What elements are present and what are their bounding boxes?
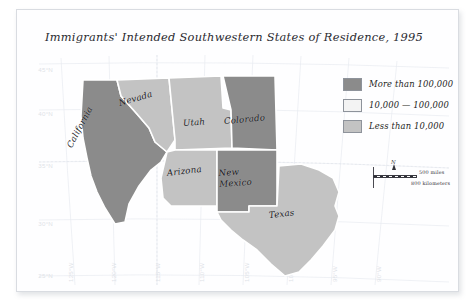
legend-item-more-than-100000[interactable]: More than 100,000 (343, 76, 453, 92)
legend: More than 100,000 10,000 — 100,000 Less … (343, 76, 453, 139)
page-title: Immigrants' Intended Southwestern States… (45, 30, 423, 44)
legend-label-less: Less than 10,000 (369, 121, 444, 131)
scale-miles-label: 500 miles (419, 169, 444, 175)
map-card: 45°N 40°N 35°N 30°N 25°N 125°W 120°W 115… (16, 9, 459, 292)
scale-kilometers-label: 800 kilometers (411, 180, 450, 186)
state-label-new-mexico: New Mexico (218, 165, 261, 190)
legend-label-mid: 10,000 — 100,000 (369, 100, 449, 110)
legend-item-less-than-10000[interactable]: Less than 10,000 (343, 118, 453, 134)
screenshot-root: 45°N 40°N 35°N 30°N 25°N 125°W 120°W 115… (0, 0, 473, 301)
scale-tick-bottom (373, 178, 374, 188)
state-label-utah: Utah (183, 116, 206, 128)
legend-item-10000-to-100000[interactable]: 10,000 — 100,000 (343, 97, 453, 113)
scale-bar-graphic (373, 175, 417, 178)
legend-swatch-less (343, 120, 362, 133)
north-arrow-icon (392, 164, 396, 170)
legend-swatch-mid (343, 99, 362, 112)
legend-label-more: More than 100,000 (369, 79, 453, 89)
legend-swatch-more (343, 78, 362, 91)
state-polygons (17, 10, 458, 291)
state-shape-arizona[interactable] (161, 150, 217, 206)
state-shape-utah[interactable] (169, 76, 232, 150)
scale-bar: N 500 miles 800 kilometers (369, 160, 453, 192)
